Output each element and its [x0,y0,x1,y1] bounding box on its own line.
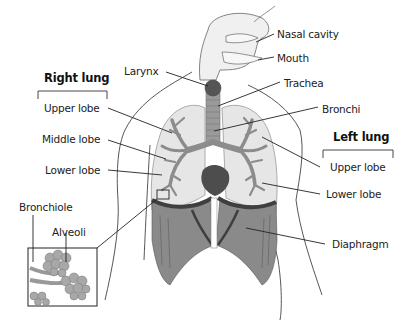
label-left-lower-lobe: Lower lobe [326,188,381,200]
label-nasal-cavity: Nasal cavity [277,28,339,40]
right-lung-shape [151,105,205,210]
label-right-middle-lobe: Middle lobe [42,133,100,145]
label-left-upper-lobe: Upper lobe [330,161,386,173]
label-bronchiole: Bronchiole [19,201,73,213]
label-alveoli: Alveoli [52,226,86,238]
label-mouth: Mouth [277,52,309,64]
head-airway [199,6,275,80]
larynx-shape [205,80,221,96]
left-lung-bracket [323,150,393,158]
label-right-upper-lobe: Upper lobe [44,102,100,114]
left-lung-heading: Left lung [333,131,389,144]
heart-shape [201,165,229,196]
diaphragm-shape [152,198,277,285]
trachea-shape [206,92,220,142]
respiratory-diagram: Right lung Left lung Nasal cavity Mouth … [0,0,415,327]
alveoli-inset [28,248,97,306]
label-bronchi: Bronchi [322,103,360,115]
label-trachea: Trachea [284,77,324,89]
label-diaphragm: Diaphragm [332,238,389,250]
right-lung-heading: Right lung [44,72,109,85]
label-larynx: Larynx [124,65,158,77]
label-right-lower-lobe: Lower lobe [45,164,100,176]
right-lung-bracket [38,91,107,99]
